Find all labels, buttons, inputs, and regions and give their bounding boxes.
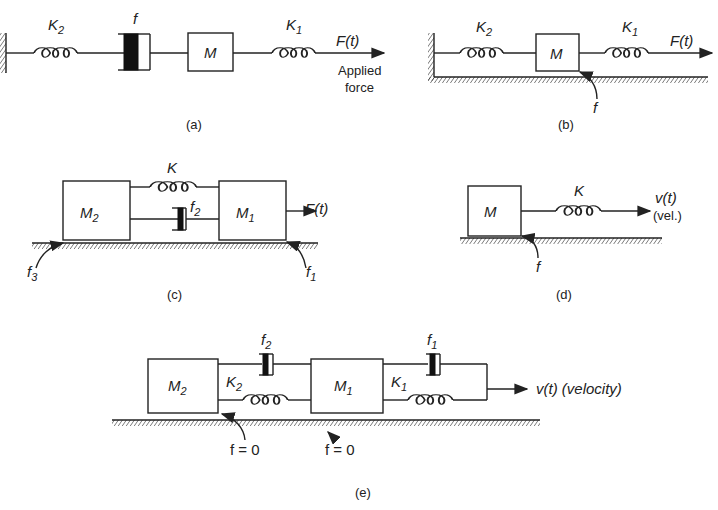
spring-k-icon — [556, 206, 601, 215]
damper-icon — [118, 34, 150, 70]
caption-c: (c) — [167, 287, 182, 302]
svg-text:f2: f2 — [190, 198, 200, 218]
spring-k-icon — [150, 182, 196, 191]
svg-text:Applied: Applied — [338, 63, 381, 78]
friction-arrow-icon — [580, 72, 597, 99]
svg-text:f: f — [133, 10, 139, 27]
svg-text:K2: K2 — [226, 373, 242, 393]
spring-k1-icon — [605, 48, 648, 57]
friction-arrow-icon — [328, 432, 332, 436]
mass-m1-block — [219, 181, 286, 240]
wall-ground — [0, 33, 6, 73]
svg-text:v(t) (velocity): v(t) (velocity) — [536, 380, 622, 397]
svg-text:f1: f1 — [306, 263, 316, 283]
svg-text:f = 0: f = 0 — [325, 441, 355, 458]
figure-b: K2 M K1 F(t) f (b) — [428, 18, 712, 132]
figure-e: M2 M1 K2 K1 f2 f1 v(t) (velocity) f = 0 … — [112, 331, 622, 500]
caption-d: (d) — [556, 287, 572, 302]
mass-m2-block — [63, 181, 130, 240]
svg-text:K: K — [167, 159, 178, 176]
damper-f1-icon — [426, 354, 440, 375]
spring-k2-icon — [243, 395, 288, 404]
svg-text:F(t): F(t) — [336, 32, 359, 49]
svg-text:f1: f1 — [427, 331, 437, 351]
svg-text:f = 0: f = 0 — [230, 441, 260, 458]
svg-text:(vel.): (vel.) — [653, 208, 682, 223]
svg-text:f: f — [536, 258, 542, 275]
svg-text:F(t): F(t) — [305, 200, 328, 217]
spring-k2-icon — [34, 48, 77, 57]
svg-text:M: M — [550, 45, 563, 62]
svg-text:F(t): F(t) — [670, 32, 693, 49]
svg-text:M: M — [204, 44, 217, 61]
svg-text:f2: f2 — [261, 331, 271, 351]
svg-text:K1: K1 — [622, 18, 638, 38]
svg-text:K1: K1 — [286, 16, 302, 36]
spring-k2-icon — [460, 48, 503, 57]
svg-text:M: M — [484, 203, 497, 220]
svg-text:K2: K2 — [476, 18, 492, 38]
figure-d: M K v(t) (vel.) f (d) — [460, 182, 682, 302]
figure-c: M2 M1 K f2 F(t) f3 f1 (c) — [27, 159, 328, 302]
caption-b: (b) — [558, 117, 574, 132]
svg-text:v(t): v(t) — [655, 189, 677, 206]
svg-text:K: K — [574, 182, 585, 199]
svg-text:K1: K1 — [391, 373, 407, 393]
svg-text:f: f — [593, 99, 599, 116]
friction-arrow-icon — [222, 414, 245, 440]
spring-k1-icon — [408, 395, 453, 404]
figure-a: K2 f M K1 F(t) Applied force (a) — [0, 10, 384, 132]
mechanical-systems-diagram: K2 f M K1 F(t) Applied force (a) K2 M K1… — [0, 0, 718, 510]
svg-text:force: force — [345, 80, 374, 95]
svg-text:K2: K2 — [48, 16, 64, 36]
caption-a: (a) — [186, 117, 202, 132]
spring-k1-icon — [272, 48, 315, 57]
caption-e: (e) — [355, 485, 371, 500]
